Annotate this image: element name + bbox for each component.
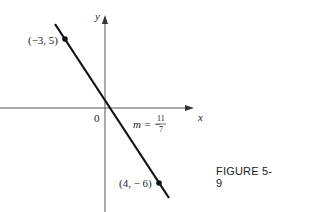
point-neg3-5 xyxy=(62,36,68,42)
y-axis-label: y xyxy=(94,10,100,22)
origin-label: 0 xyxy=(94,112,100,124)
point-4-neg6 xyxy=(156,180,162,186)
graph-line xyxy=(55,24,169,198)
x-axis-arrow-icon xyxy=(185,105,194,111)
x-axis-label: x xyxy=(197,111,203,123)
slope-numerator: 11 xyxy=(157,114,165,123)
slope-denominator: 7 xyxy=(159,125,163,134)
y-axis-arrow-icon xyxy=(102,15,108,24)
point-label-4-neg6: (4, − 6) xyxy=(119,177,152,190)
figure-caption: FIGURE 5-9 xyxy=(216,165,277,189)
point-label-neg3-5: (−3, 5) xyxy=(28,34,58,47)
